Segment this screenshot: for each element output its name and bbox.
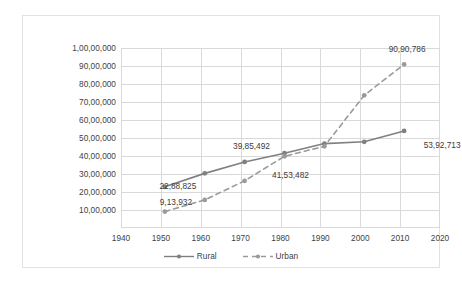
data-label-urban-1981: 39,85,492 <box>233 142 270 150</box>
y-axis-tick-label: 80,00,000 <box>79 80 116 88</box>
data-point-urban-1971 <box>242 178 247 183</box>
data-label-urban-1951: 9,13,932 <box>160 197 192 205</box>
data-label-rural-2011: 53,92,713 <box>424 141 461 149</box>
y-axis-tick-label: 70,00,000 <box>79 98 116 106</box>
data-label-urban-2011: 90,90,786 <box>389 45 426 53</box>
chart-legend: Rural Urban <box>23 252 439 261</box>
y-axis-tick-label: 1,00,00,000 <box>72 44 116 52</box>
y-axis-tick-label: 10,00,000 <box>79 206 116 214</box>
data-point-rural-2011 <box>402 129 407 134</box>
chart-container: 10,00,00020,00,00030,00,00040,00,00050,0… <box>22 15 440 268</box>
data-point-urban-2011 <box>402 62 407 67</box>
y-axis-tick-label: 40,00,000 <box>79 152 116 160</box>
x-axis-tick-label: 1970 <box>231 234 249 242</box>
data-point-rural-1971 <box>242 160 247 165</box>
x-axis-tick-label: 1940 <box>112 234 130 242</box>
x-axis-tick-label: 1950 <box>152 234 170 242</box>
data-point-urban-1951 <box>162 209 167 214</box>
x-axis-tick-label: 1960 <box>192 234 210 242</box>
x-axis-tick-label: 2000 <box>351 234 369 242</box>
data-label-rural-1951: 22,88,825 <box>159 182 196 190</box>
legend-label-urban: Urban <box>276 252 299 260</box>
y-axis-tick-label: 20,00,000 <box>79 188 116 196</box>
y-axis-tick-label: 60,00,000 <box>79 116 116 124</box>
y-axis-tick-label: 50,00,000 <box>79 134 116 142</box>
x-axis-tick-label: 2020 <box>431 234 449 242</box>
data-point-rural-1961 <box>202 171 207 176</box>
plot-area: 10,00,00020,00,00030,00,00040,00,00050,0… <box>121 48 440 228</box>
data-point-urban-2001 <box>362 93 367 98</box>
data-point-urban-1961 <box>202 198 207 203</box>
legend-swatch-rural <box>164 252 194 261</box>
x-axis-tick-label: 1990 <box>311 234 329 242</box>
data-point-urban-1981 <box>282 154 287 159</box>
y-axis-tick-label: 30,00,000 <box>79 170 116 178</box>
data-point-rural-2001 <box>362 139 367 144</box>
data-point-urban-1991 <box>322 144 327 149</box>
legend-item-urban[interactable]: Urban <box>243 252 299 261</box>
legend-swatch-urban <box>243 252 273 261</box>
series-line-urban <box>165 64 404 211</box>
x-axis-tick-label: 2010 <box>391 234 409 242</box>
legend-item-rural[interactable]: Rural <box>164 252 217 261</box>
legend-label-rural: Rural <box>197 252 217 260</box>
y-axis-tick-label: 90,00,000 <box>79 62 116 70</box>
data-label-rural-1981: 41,53,482 <box>272 171 309 179</box>
x-axis-tick-label: 1980 <box>271 234 289 242</box>
